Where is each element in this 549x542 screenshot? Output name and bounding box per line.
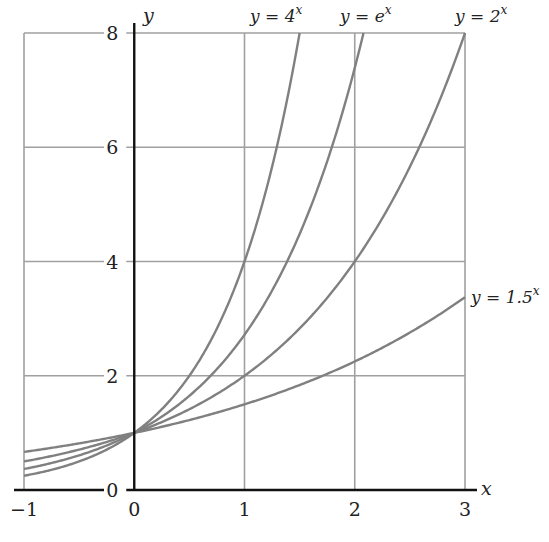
- x-tick-label: 0: [128, 498, 140, 520]
- y-tick-label: 4: [106, 251, 118, 273]
- curve-label-1-5x: y = 1.5x: [470, 284, 540, 307]
- curve-label-4x: y = 4x: [249, 3, 302, 26]
- x-tick-label: 2: [349, 498, 361, 520]
- x-tick-label: 1: [238, 498, 250, 520]
- exponential-functions-chart: 02468−10123 y x y = 4x y = ex y = 2x y =…: [0, 0, 549, 542]
- curve-label-ex: y = ex: [339, 3, 392, 26]
- y-tick-label: 8: [106, 22, 118, 44]
- y-axis-label: y: [142, 4, 154, 26]
- curve-y-4-x: [24, 33, 300, 476]
- curve-y-e-x: [24, 33, 364, 469]
- y-tick-label: 6: [106, 136, 118, 158]
- x-tick-label: 3: [459, 498, 471, 520]
- y-tick-label: 0: [106, 479, 118, 501]
- y-tick-label: 2: [106, 365, 118, 387]
- x-axis-label: x: [481, 477, 492, 499]
- curve-label-2x: y = 2x: [454, 3, 507, 26]
- x-tick-label: −1: [10, 498, 38, 520]
